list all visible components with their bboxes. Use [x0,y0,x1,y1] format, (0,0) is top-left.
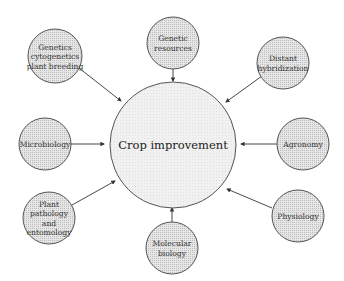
center-label: Crop improvement [118,138,228,152]
node-label: biology [158,249,187,258]
node-label: and [42,219,56,228]
node-physiology: Physiology [272,190,324,242]
node-label: resources [154,44,192,53]
node-label: Genetics [38,43,72,52]
center-node: Crop improvement [110,82,236,208]
crop-improvement-diagram: Crop improvement Geneticscytogeneticspla… [0,0,344,281]
node-molecular-biology: Molecularbiology [146,222,198,274]
arrow-distant-hybridization [226,76,262,102]
node-label: Plant [39,200,59,209]
node-label: cytogenetics [31,52,80,61]
node-label: plant breeding [27,62,84,71]
node-label: pathology [30,209,69,218]
node-label: Distant [269,54,297,63]
node-label: Microbiology [20,140,71,149]
node-agronomy: Agronomy [277,118,329,170]
node-distant-hybridization: Distanthybridization [257,37,309,89]
node-plant-pathology: Plantpathologyandentomology [23,192,75,244]
node-label: hybridization [258,64,309,73]
node-label: Agronomy [282,140,323,149]
node-label: Physiology [277,212,319,221]
arrow-physiology [227,189,272,208]
node-label: Genetic [158,34,188,43]
arrow-genetics [79,68,121,101]
arrow-plant-pathology [72,181,115,205]
node-label: Molecular [153,239,192,248]
node-genetics: Geneticscytogeneticsplant breeding [27,29,84,83]
node-label: entomology [27,228,73,237]
node-microbiology: Microbiology [19,118,71,170]
node-genetic-resources: Geneticresources [147,17,199,69]
